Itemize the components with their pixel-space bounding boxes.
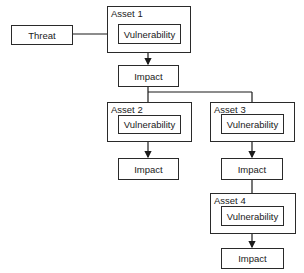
asset-2-impact-node: Impact: [118, 158, 179, 180]
asset-1-vulnerability-node: Vulnerability: [118, 24, 181, 44]
asset-4-label: Asset 4: [214, 195, 246, 206]
impact-label: Impact: [134, 71, 163, 82]
threat-label: Threat: [28, 30, 55, 41]
asset-4-vulnerability-node: Vulnerability: [221, 206, 284, 226]
asset-2-vulnerability-node: Vulnerability: [118, 115, 181, 134]
vulnerability-label: Vulnerability: [124, 119, 175, 130]
threat-node: Threat: [11, 25, 73, 45]
asset-2-label: Asset 2: [111, 104, 143, 115]
impact-label: Impact: [134, 164, 163, 175]
asset-3-impact-node: Impact: [221, 158, 283, 180]
vulnerability-label: Vulnerability: [227, 211, 278, 222]
asset-1-impact-node: Impact: [118, 65, 179, 87]
vulnerability-label: Vulnerability: [124, 29, 175, 40]
impact-label: Impact: [238, 164, 267, 175]
impact-label: Impact: [238, 253, 267, 264]
asset-4-impact-node: Impact: [221, 248, 284, 269]
asset-1-label: Asset 1: [111, 8, 143, 19]
asset-3-vulnerability-node: Vulnerability: [221, 114, 284, 134]
vulnerability-label: Vulnerability: [227, 119, 278, 130]
